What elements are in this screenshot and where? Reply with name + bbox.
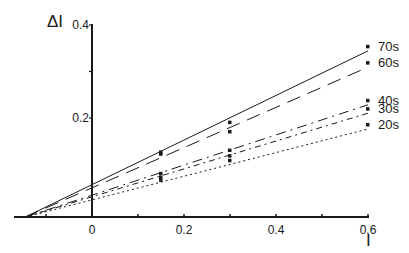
data-point [366, 61, 370, 65]
data-point [159, 178, 163, 182]
x-tick-label: 0 [89, 223, 96, 237]
legend: 70s60s40s30s20s [378, 39, 399, 132]
data-point [366, 107, 370, 111]
legend-label-70s: 70s [378, 39, 399, 54]
data-point [228, 159, 232, 163]
y-tick-label: 0.2 [72, 111, 89, 125]
x-tick-label: 0.4 [268, 223, 285, 237]
data-point [366, 123, 370, 127]
legend-label-20s: 20s [378, 117, 399, 132]
series-line-30s [25, 113, 368, 217]
plot-area: 00.20.40.6 0.20.4 70s60s40s30s20s ΔI I [0, 0, 409, 253]
data-point [228, 121, 232, 125]
legend-label-30s: 30s [378, 101, 399, 116]
y-ticks: 0.20.4 [72, 18, 92, 125]
data-point [159, 152, 163, 156]
y-axis-title: ΔI [47, 12, 63, 31]
data-point [366, 99, 370, 103]
data-point [228, 149, 232, 153]
data-point [159, 172, 163, 176]
data-point [228, 154, 232, 158]
y-tick-label: 0.4 [72, 18, 89, 32]
chart-container: 00.20.40.6 0.20.4 70s60s40s30s20s ΔI I [0, 0, 409, 253]
x-axis-title: I [366, 231, 371, 250]
legend-label-60s: 60s [378, 55, 399, 70]
x-tick-label: 0.2 [176, 223, 193, 237]
data-point [228, 130, 232, 134]
series-lines [25, 51, 368, 217]
data-point [366, 45, 370, 49]
series-line-70s [25, 51, 368, 217]
